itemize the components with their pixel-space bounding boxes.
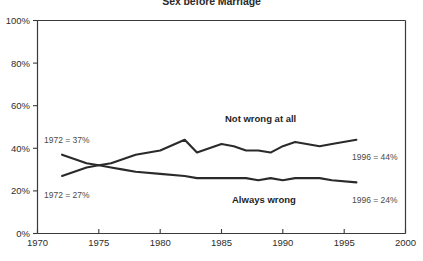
x-tick-label-1995: 1995	[334, 237, 355, 248]
y-tick-label-60: 60%	[11, 100, 31, 111]
x-tick-label-1975: 1975	[88, 237, 109, 248]
y-tick-label-80: 80%	[11, 58, 31, 69]
annotation-1972-not-wrong-at-all: 1972 = 27%	[44, 190, 90, 200]
series-line-always-wrong	[62, 155, 356, 183]
x-tick-label-1970: 1970	[27, 237, 48, 248]
x-tick-label-1980: 1980	[150, 237, 171, 248]
annotation-1996-always-wrong: 1996 = 24%	[352, 195, 398, 205]
series-label-not-wrong-at-all: Not wrong at all	[225, 113, 296, 124]
y-tick-label-100: 100%	[6, 15, 31, 26]
chart-container: Sex before Marriage 100% 80% 60% 40% 20%…	[0, 0, 423, 261]
y-tick-label-20: 20%	[11, 185, 31, 196]
annotation-1996-not-wrong-at-all: 1996 = 44%	[352, 152, 398, 162]
annotation-1972-always-wrong: 1972 = 37%	[44, 135, 90, 145]
chart-plot-area: 100% 80% 60% 40% 20% 0% 1970 1975 1980 1…	[0, 0, 423, 261]
series-label-always-wrong: Always wrong	[232, 194, 296, 205]
y-tick-label-40: 40%	[11, 143, 31, 154]
x-tick-label-1990: 1990	[272, 237, 293, 248]
x-tick-label-1985: 1985	[211, 237, 232, 248]
series-line-not-wrong-at-all	[62, 140, 356, 176]
x-tick-label-2000: 2000	[395, 237, 416, 248]
